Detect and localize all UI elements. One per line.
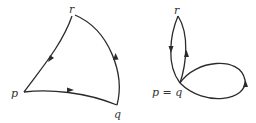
arrow-r-to-pq-icon xyxy=(169,46,174,53)
vertex-label-p-equals-q: p = q xyxy=(152,86,182,99)
edge-pq-loop xyxy=(180,63,245,98)
vertex-label-p: p xyxy=(11,87,18,100)
vertex-label-q: q xyxy=(114,108,121,121)
arrow-p-to-q-icon xyxy=(67,88,74,93)
edge-p-to-q xyxy=(24,91,117,105)
diagram-canvas: r p q r p = q xyxy=(0,0,256,123)
arrow-loop-icon xyxy=(243,80,248,87)
vertex-label-r-right: r xyxy=(174,4,180,17)
edge-q-to-r xyxy=(75,15,119,105)
arrow-pq-to-r-icon xyxy=(184,50,189,57)
edge-r-to-p xyxy=(24,16,72,92)
right-loop-diagram: r p = q xyxy=(152,4,248,99)
edge-pq-to-r xyxy=(178,16,186,83)
arrow-q-to-r-icon xyxy=(113,53,119,60)
vertex-label-r: r xyxy=(69,3,75,16)
left-triangle-diagram: r p q xyxy=(11,3,121,121)
